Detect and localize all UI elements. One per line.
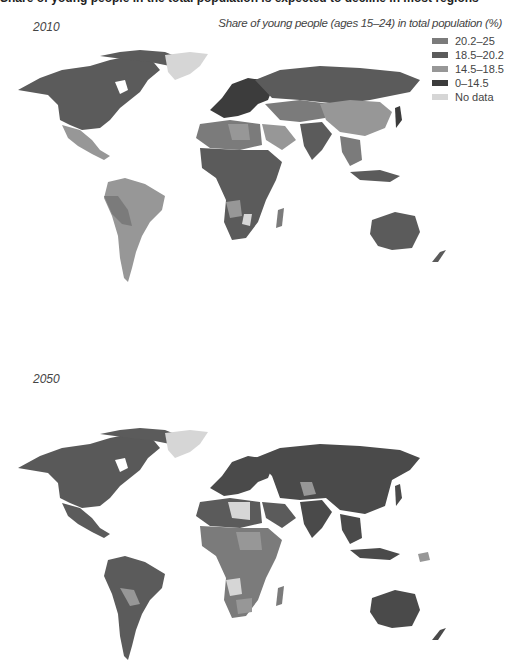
region-russia xyxy=(255,444,420,514)
region-south-america xyxy=(104,556,165,660)
region-north-america xyxy=(18,434,160,508)
region-australia xyxy=(370,590,420,628)
region-south-america xyxy=(104,178,165,282)
region-mexico xyxy=(62,503,110,538)
region-central-asia xyxy=(265,100,330,122)
region-greenland xyxy=(165,52,208,80)
map-2050 xyxy=(0,350,506,666)
map-2010 xyxy=(0,0,506,320)
region-india xyxy=(300,122,332,160)
region-russia xyxy=(255,66,420,104)
region-sub-saharan-africa xyxy=(200,148,282,240)
region-north-america xyxy=(18,56,160,130)
region-australia xyxy=(370,212,420,250)
region-greenland xyxy=(165,430,208,458)
region-china xyxy=(320,100,392,136)
region-mexico xyxy=(62,125,110,160)
region-india xyxy=(300,500,332,538)
